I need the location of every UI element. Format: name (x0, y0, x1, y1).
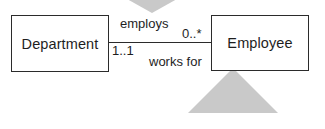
association-label-employs: employs (118, 17, 170, 31)
class-box-employee[interactable]: Employee (211, 15, 309, 71)
class-box-department[interactable]: Department (11, 15, 109, 72)
class-name-employee: Employee (227, 35, 292, 51)
association-label-works-for: works for (147, 55, 204, 69)
multiplicity-label-target: 0..* (180, 27, 204, 41)
uml-class-diagram: Department Employee employs 0..* 1..1 wo… (0, 0, 325, 129)
multiplicity-label-source: 1..1 (110, 44, 136, 58)
class-name-department: Department (22, 36, 99, 52)
watermark-triangle-down-icon (127, 0, 177, 13)
watermark-triangle-up-icon (188, 68, 278, 113)
